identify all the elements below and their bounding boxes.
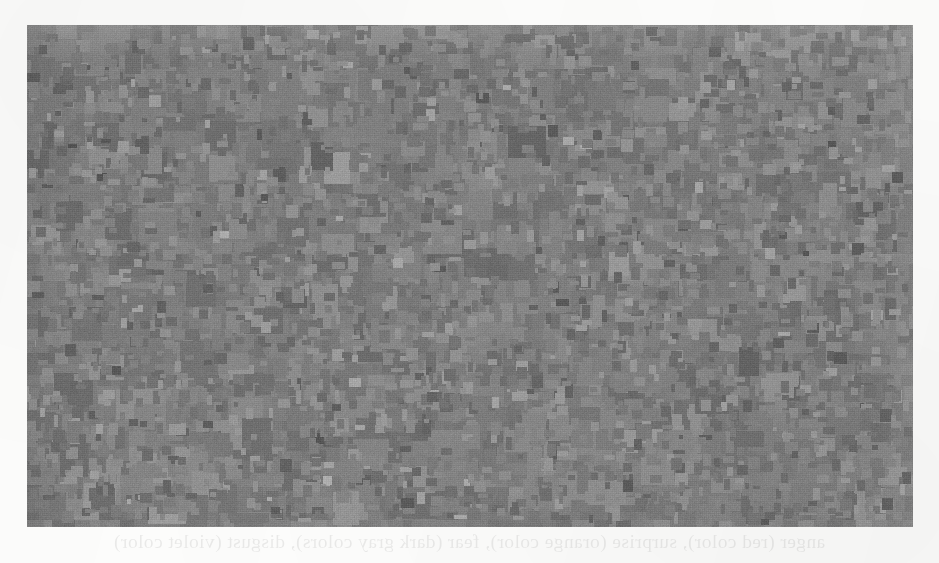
showthrough-text-bottom: anger (red color), surprise (orange colo… [4,531,935,553]
figure-pixelated-mosaic [27,25,913,527]
mosaic-canvas [27,25,913,527]
scanned-page: anger (red color), surprise (orange colo… [0,0,939,563]
